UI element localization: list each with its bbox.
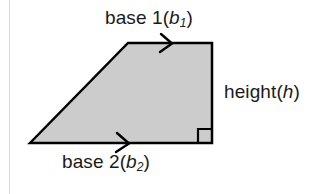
label-base-2: base 2(b2) [62,152,150,173]
label-height-paren-close: ) [293,81,299,102]
label-base-1-variable: b [169,7,180,28]
label-base-1-paren-close: ) [186,7,192,28]
trapezoid-shape [30,43,212,143]
label-base-1: base 1(b1) [105,8,193,29]
label-base-2-variable: b [126,151,137,172]
label-base-2-paren-close: ) [143,151,149,172]
label-height-variable: h [283,81,294,102]
label-height-text: height [224,81,276,102]
trapezoid-figure: base 1(b1) base 2(b2) height(h) [0,0,335,194]
label-height: height(h) [224,82,300,101]
label-base-2-text: base 2 [62,151,120,172]
label-base-1-text: base 1 [105,7,163,28]
